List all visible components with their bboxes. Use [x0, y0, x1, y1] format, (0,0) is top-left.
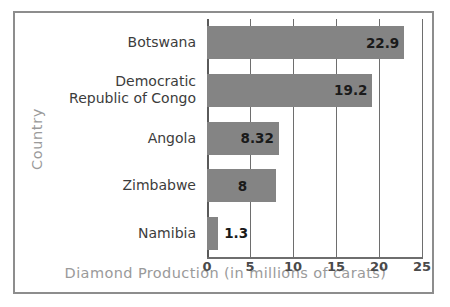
x-tick-label: 15	[316, 259, 356, 274]
bar-value-label: 1.3	[224, 225, 248, 241]
x-tick-label: 0	[187, 259, 227, 274]
x-tick-label: 10	[273, 259, 313, 274]
bar-row: 1.3	[207, 217, 422, 250]
category-label: Zimbabwe	[25, 177, 205, 194]
bar-row: 22.9	[207, 26, 422, 59]
bar-value-label: 8.32	[241, 130, 274, 146]
bar-row: 8.32	[207, 122, 422, 155]
bar-value-label: 19.2	[334, 82, 367, 98]
x-tick-label: 5	[230, 259, 270, 274]
x-tick-label: 25	[402, 259, 442, 274]
bar-row: 19.2	[207, 74, 422, 107]
bar-value-label: 8	[238, 178, 247, 194]
bar[interactable]	[207, 217, 218, 250]
category-label: Democratic Republic of Congo	[25, 73, 205, 107]
chart-frame: Country 22.919.28.3281.3 Diamond Product…	[13, 11, 434, 294]
x-tick-label: 20	[359, 259, 399, 274]
category-label: Namibia	[25, 225, 205, 242]
category-label: Angola	[25, 130, 205, 147]
bar-row: 8	[207, 169, 422, 202]
category-label: Botswana	[25, 34, 205, 51]
plot-area: 22.919.28.3281.3	[207, 19, 422, 257]
bar-value-label: 22.9	[366, 35, 399, 51]
gridline-25	[422, 19, 423, 257]
